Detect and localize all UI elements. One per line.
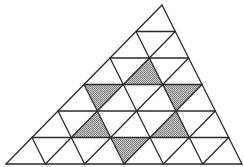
triangle-grid-diagram	[0, 0, 244, 167]
triangle-grid-svg	[0, 0, 244, 167]
